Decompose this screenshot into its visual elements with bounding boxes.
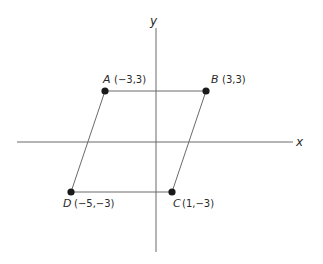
vertex-c-coords: (1,−3) [182,198,214,209]
vertex-d-label: D (−5,−3) [63,197,115,210]
vertex-a-letter: A [102,73,111,86]
vertex-b-coords: (3,3) [222,74,246,85]
coordinate-diagram: x y A (−3,3) B (3,3) C (1,−3) D (−5,−3) [0,0,323,264]
vertex-a-dot [101,87,108,94]
vertex-d-coords: (−5,−3) [74,198,115,209]
vertex-a-coords: (−3,3) [114,74,146,85]
vertex-c-label: C (1,−3) [173,197,214,210]
vertex-d-dot [67,188,74,195]
x-axis-label: x [295,135,304,149]
vertex-c-dot [168,188,175,195]
vertex-a-label: A (−3,3) [102,73,146,86]
vertex-d-letter: D [63,197,71,210]
y-axis-label: y [149,14,158,28]
vertex-c-letter: C [173,197,181,210]
vertex-b-dot [202,87,209,94]
vertex-b-letter: B [211,73,219,86]
vertex-b-label: B (3,3) [211,73,246,86]
